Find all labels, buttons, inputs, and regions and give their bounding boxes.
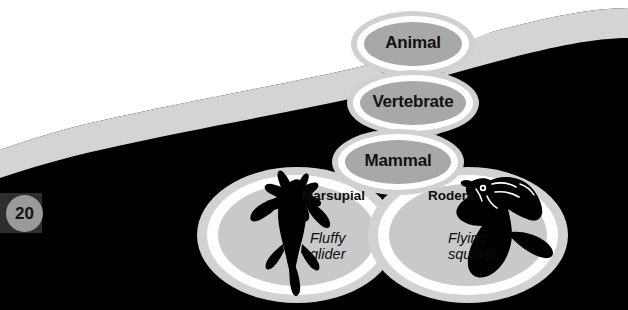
background-artwork [0,0,628,310]
category-label-rodent: Rodent [428,188,475,203]
category-label-marsupial: Marsupial [302,188,365,203]
node-label-mammal: Mammal [338,151,458,171]
page-canvas: Animal Vertebrate Mammal Marsupial Roden… [0,0,628,310]
species-label-flying-squirrel: Flying squirrel [448,230,496,262]
node-label-animal: Animal [363,33,463,53]
species-line-1: Flying [448,230,496,246]
page-number-badge: 20 [6,195,43,232]
node-label-vertebrate: Vertebrate [353,92,473,112]
species-line-1: Fluffy [310,230,345,246]
species-line-2: squirrel [448,246,496,262]
species-line-2: glider [310,246,345,262]
species-label-fluffy-glider: Fluffy glider [310,230,345,262]
page-number: 20 [15,204,34,224]
